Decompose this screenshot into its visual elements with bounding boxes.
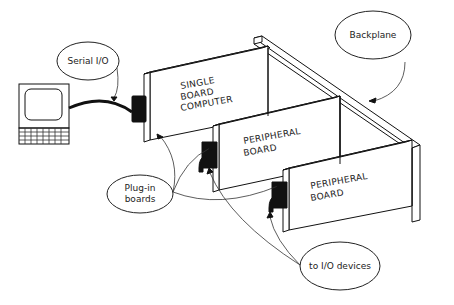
- callout-backplane: Backplane: [335, 11, 411, 103]
- serial-io-label: Serial I/O: [67, 56, 108, 66]
- sbc-connector: [132, 96, 146, 122]
- backplane-label: Backplane: [350, 30, 397, 40]
- serial-cable: [69, 101, 132, 112]
- terminal-icon: [19, 84, 69, 144]
- backplane-diagram: SINGLE BOARD COMPUTER PERIPHERAL BOARD P…: [0, 0, 454, 305]
- io-devices-label: to I/O devices: [309, 261, 371, 271]
- plugin-boards-label-line1: Plug-in: [125, 183, 156, 193]
- callout-serial-io: Serial I/O: [57, 42, 119, 101]
- peripheral-1-connector: [199, 142, 217, 172]
- plugin-boards-label-line2: boards: [125, 194, 156, 204]
